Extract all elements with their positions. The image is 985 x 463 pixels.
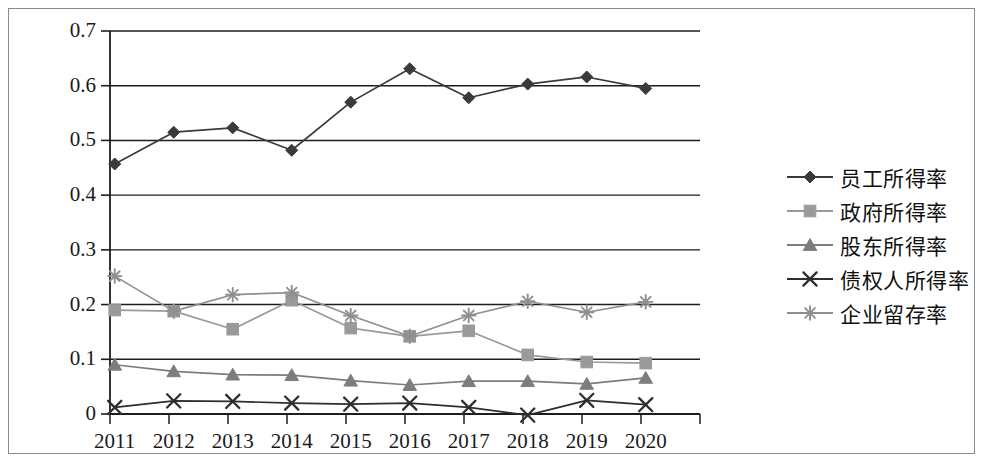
y-axis-tick-label: 0.2 (70, 294, 96, 315)
marker-diamond (227, 122, 239, 134)
data-series (108, 394, 652, 422)
data-series (109, 63, 652, 170)
series-line (115, 276, 646, 336)
marker-asterisk (803, 306, 817, 320)
y-axis-tick-label: 0.6 (70, 75, 96, 96)
marker-asterisk (108, 269, 122, 283)
marker-square (522, 349, 534, 361)
marker-square (581, 356, 593, 368)
marker-diamond (404, 63, 416, 75)
y-axis-tick-label: 0 (86, 403, 97, 424)
marker-diamond (804, 171, 816, 183)
marker-square (463, 325, 475, 337)
data-series (109, 294, 652, 369)
marker-square (227, 323, 239, 335)
legend-marker-square-icon (786, 201, 834, 221)
series-line (115, 365, 646, 385)
chart-legend: 员工所得率政府所得率股东所得率债权人所得率企业留存率 (786, 160, 976, 330)
marker-asterisk (167, 304, 181, 318)
marker-diamond (463, 92, 475, 104)
marker-diamond (522, 78, 534, 90)
y-axis-tick-label: 0.7 (70, 20, 96, 41)
marker-diamond (640, 82, 652, 94)
marker-triangle (639, 371, 653, 383)
legend-item[interactable]: 政府所得率 (786, 194, 976, 228)
legend-item-label: 员工所得率 (840, 162, 948, 192)
series-line (115, 69, 646, 164)
legend-item-label: 企业留存率 (840, 298, 948, 328)
legend-item[interactable]: 债权人所得率 (786, 262, 976, 296)
marker-square (804, 205, 816, 217)
legend-marker-asterisk-icon (786, 303, 834, 323)
legend-item-label: 债权人所得率 (840, 264, 969, 294)
axes (101, 31, 700, 424)
y-axis-tick-label: 0.3 (70, 239, 96, 260)
marker-square (109, 304, 121, 316)
marker-asterisk (226, 288, 240, 302)
gridlines (110, 31, 700, 414)
marker-diamond (168, 126, 180, 138)
marker-square (345, 322, 357, 334)
legend-item[interactable]: 企业留存率 (786, 296, 976, 330)
legend-marker-triangle-icon (786, 235, 834, 255)
legend-marker-x-icon (786, 269, 834, 289)
legend-item-label: 政府所得率 (840, 196, 948, 226)
data-series (108, 358, 653, 390)
y-axis-tick-label: 0.5 (70, 129, 96, 150)
marker-asterisk (580, 305, 594, 319)
marker-square (640, 357, 652, 369)
legend-item[interactable]: 股东所得率 (786, 228, 976, 262)
x-axis-tick-label: 2020 (606, 431, 686, 452)
marker-asterisk (521, 294, 535, 308)
marker-asterisk (344, 309, 358, 323)
marker-diamond (581, 71, 593, 83)
marker-asterisk (462, 309, 476, 323)
marker-asterisk (639, 295, 653, 309)
legend-item-label: 股东所得率 (840, 230, 948, 260)
legend-marker-diamond-icon (786, 167, 834, 187)
chart-figure: 00.10.20.30.40.50.60.7 20112012201320142… (0, 0, 985, 463)
series-line (115, 300, 646, 363)
y-axis-tick-label: 0.4 (70, 184, 96, 205)
legend-item[interactable]: 员工所得率 (786, 160, 976, 194)
y-axis-tick-label: 0.1 (70, 348, 96, 369)
marker-asterisk (285, 286, 299, 300)
marker-asterisk (403, 330, 417, 344)
series-line (115, 400, 646, 415)
